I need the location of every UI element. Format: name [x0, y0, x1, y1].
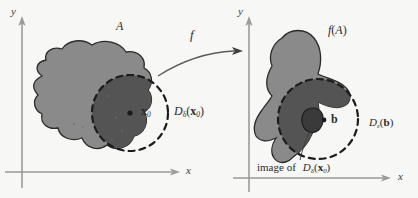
map-label-f: f — [190, 28, 194, 41]
left-set-label-A: A — [116, 20, 123, 32]
right-set-label-fA: f(A) — [328, 24, 347, 36]
left-y-axis-label: y — [11, 6, 16, 17]
right-set-fA-shape — [254, 31, 350, 163]
curved-arrow-path — [158, 51, 234, 76]
map-arrow-group — [158, 47, 243, 76]
left-point-label-subscript: 0 — [147, 110, 151, 119]
right-caption-image-of-delta-disk: image ofDδ(x0) — [257, 162, 330, 175]
caption-disk-D: D — [303, 161, 311, 173]
left-set-A-shape — [34, 41, 152, 149]
right-point-b-marker — [322, 118, 327, 123]
diagram-canvas — [0, 0, 418, 198]
right-disk-label-paren-close: ) — [390, 116, 394, 128]
left-disk-label-D: D — [174, 104, 183, 118]
caption-prefix-text: image of — [257, 161, 296, 173]
figure-continuity-diagram: y x A x0 Dδ(x0) f y x f(A) b Dε(b) image… — [0, 0, 418, 198]
left-x-axis-label: x — [186, 165, 191, 176]
left-point-label-x0: x0 — [141, 105, 151, 119]
right-disk-label-D: D — [369, 116, 377, 128]
caption-paren-close: ) — [327, 161, 331, 173]
left-center-point-x0 — [127, 110, 132, 115]
right-x-axis-label: x — [398, 171, 403, 182]
right-y-axis-label: y — [238, 6, 243, 17]
left-disk-label-paren-close: ) — [200, 104, 204, 118]
right-point-label-b: b — [331, 113, 338, 125]
right-set-label-paren-close: ) — [343, 23, 347, 37]
right-set-label-arg: A — [335, 23, 342, 37]
right-disk-label-epsilon: Dε(b) — [369, 117, 393, 130]
left-disk-label-delta: Dδ(x0) — [174, 105, 204, 119]
image-of-delta-disk-blob — [302, 108, 323, 132]
